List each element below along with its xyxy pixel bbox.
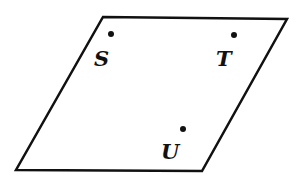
plane-parallelogram (16, 17, 287, 171)
point-s-dot (108, 31, 114, 37)
point-t-label: T (216, 46, 233, 71)
plane-diagram: S T U (0, 0, 301, 188)
point-u-dot (180, 126, 186, 132)
diagram-canvas: S T U (0, 0, 301, 188)
point-t-dot (231, 32, 237, 38)
point-s-label: S (94, 46, 109, 71)
point-u-label: U (161, 139, 181, 164)
